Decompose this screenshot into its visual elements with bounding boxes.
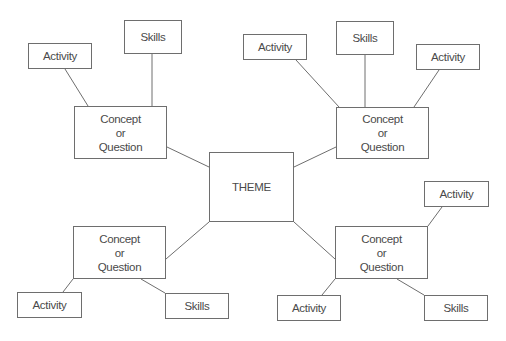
activity-node-top-left: Activity [28,43,92,69]
skills-label: Skills [140,30,165,44]
connector-line [414,70,439,107]
connector-line [294,222,335,259]
activity-node-bottom-right-2: Activity [277,295,341,321]
activity-label: Activity [32,298,66,312]
skills-label: Skills [352,31,377,45]
activity-node-top-right-2: Activity [416,44,480,70]
skills-node-bottom-left: Skills [165,293,229,319]
activity-label: Activity [439,187,473,201]
concept-label: Concept or Question [99,112,143,154]
skills-node-top-right: Skills [336,21,394,55]
activity-label: Activity [431,50,465,64]
concept-node-top-right: Concept or Question [336,107,429,159]
activity-node-bottom-left: Activity [17,292,82,318]
concept-node-bottom-right: Concept or Question [335,226,428,279]
connector-line [63,279,73,292]
connector-line [296,60,339,107]
theme-node: THEME [209,152,294,222]
connector-line [294,147,336,167]
concept-label: Concept or Question [361,112,405,154]
skills-label: Skills [443,301,468,315]
activity-node-bottom-right-1: Activity [424,181,489,207]
connector-line [141,279,165,293]
connector-line [397,279,424,295]
skills-label: Skills [184,299,209,313]
concept-node-top-left: Concept or Question [74,106,167,159]
connector-line [166,222,209,259]
concept-map-canvas: THEME Concept or Question Activity Skill… [0,0,506,341]
concept-label: Concept or Question [98,232,142,274]
activity-label: Activity [43,49,77,63]
theme-label: THEME [232,180,271,194]
skills-node-bottom-right: Skills [424,295,488,321]
activity-label: Activity [292,301,326,315]
connector-line [167,147,209,167]
connector-line [322,279,335,295]
activity-label: Activity [258,40,292,54]
concept-label: Concept or Question [360,232,404,274]
skills-node-top-left: Skills [124,20,182,54]
connector-line [428,207,442,226]
concept-node-bottom-left: Concept or Question [73,226,166,279]
activity-node-top-right-1: Activity [243,34,307,60]
connector-line [65,69,88,106]
